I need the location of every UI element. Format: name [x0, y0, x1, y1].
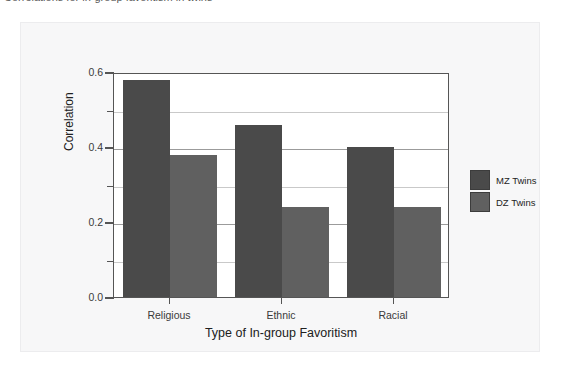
bar-ethnic-dz — [282, 207, 329, 297]
y-tick — [105, 147, 114, 149]
x-tick — [169, 298, 170, 304]
legend-label-mz: MZ Twins — [496, 175, 536, 186]
y-tick-minor — [107, 186, 114, 187]
legend-swatch-dz-icon — [470, 192, 490, 212]
x-tick — [393, 298, 394, 304]
bar-ethnic-mz — [235, 125, 282, 298]
bar-religious-mz — [123, 80, 170, 298]
bar-religious-dz — [170, 155, 217, 298]
y-tick — [105, 222, 114, 224]
figure-caption-text: Correlations for in-group favoritism in … — [4, 0, 212, 3]
y-tick-minor — [107, 111, 114, 112]
plot-area — [113, 73, 449, 298]
bar-racial-mz — [347, 147, 394, 297]
figure-panel: Correlation 0.00.20.40.6 ReligiousEthnic… — [20, 22, 540, 352]
legend-swatch-mz-icon — [470, 170, 490, 190]
y-tick-label: 0.6 — [65, 66, 103, 78]
y-tick-minor — [107, 261, 114, 262]
x-tick — [281, 298, 282, 304]
x-tick-label-ethnic: Ethnic — [231, 309, 331, 321]
figure-caption-strip: Correlations for in-group favoritism in … — [0, 0, 567, 10]
x-axis-title: Type of In-group Favoritism — [21, 326, 541, 340]
legend-item-dz[interactable]: DZ Twins — [470, 192, 532, 213]
x-tick-label-racial: Racial — [343, 309, 443, 321]
y-tick — [105, 72, 114, 74]
y-tick-label: 0.2 — [65, 216, 103, 228]
y-tick-label: 0.4 — [65, 141, 103, 153]
legend-label-dz: DZ Twins — [496, 197, 535, 208]
y-tick — [105, 297, 114, 299]
x-tick-label-religious: Religious — [119, 309, 219, 321]
legend-item-mz[interactable]: MZ Twins — [470, 170, 532, 191]
bar-racial-dz — [394, 207, 441, 297]
y-tick-label: 0.0 — [65, 291, 103, 303]
chart-legend: MZ Twins DZ Twins — [470, 170, 532, 214]
